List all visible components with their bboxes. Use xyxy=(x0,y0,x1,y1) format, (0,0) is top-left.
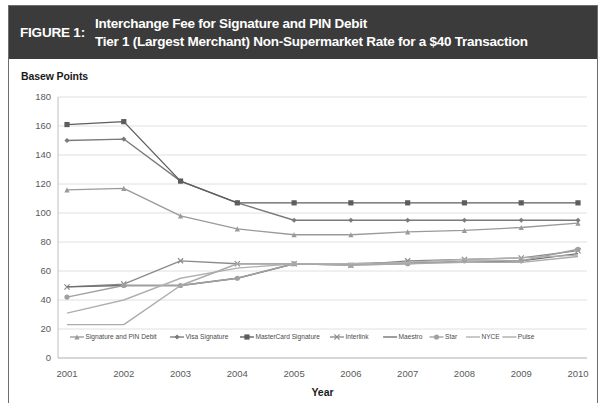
series-marker xyxy=(462,200,467,205)
x-axis-tick-label: 2006 xyxy=(340,368,361,379)
series-marker xyxy=(462,218,467,223)
y-axis-tick-label: 140 xyxy=(35,149,51,160)
series-marker xyxy=(292,218,297,223)
y-axis-tick-label: 180 xyxy=(35,91,51,102)
y-axis-tick-label: 40 xyxy=(40,294,51,305)
x-axis-tick-label: 2003 xyxy=(170,368,191,379)
series-marker xyxy=(235,200,240,205)
legend-item-label: MasterCard Signature xyxy=(255,333,320,341)
series-marker xyxy=(292,200,297,205)
series-marker xyxy=(405,200,410,205)
series-line xyxy=(67,122,578,203)
series-line xyxy=(67,188,578,234)
x-axis-title: Year xyxy=(311,386,333,398)
figure-number-label: FIGURE 1: xyxy=(20,25,95,40)
series-marker xyxy=(348,218,353,223)
series-marker xyxy=(575,247,580,252)
y-axis-tick-label: 160 xyxy=(35,120,51,131)
series-line xyxy=(67,257,578,325)
series-marker xyxy=(178,179,183,184)
series-marker xyxy=(405,218,410,223)
legend-item-label: Signature and PIN Debit xyxy=(86,333,157,341)
series-marker xyxy=(121,283,126,288)
figure-title-lines: Interchange Fee for Signature and PIN De… xyxy=(95,15,528,51)
figure-title-line-2: Tier 1 (Largest Merchant) Non-Supermarke… xyxy=(95,33,528,51)
series-marker xyxy=(64,122,69,127)
figure-title-line-1: Interchange Fee for Signature and PIN De… xyxy=(95,15,528,33)
x-axis-tick-label: 2004 xyxy=(227,368,248,379)
series-marker xyxy=(575,200,580,205)
x-axis-tick-label: 2002 xyxy=(113,368,134,379)
series-marker xyxy=(64,295,69,300)
series-marker xyxy=(235,276,240,281)
x-axis-tick-label: 2010 xyxy=(567,368,588,379)
series-line xyxy=(67,249,578,297)
series-marker xyxy=(575,218,580,223)
series-line xyxy=(67,255,578,313)
y-axis-tick-label: 120 xyxy=(35,178,51,189)
x-axis-tick-label: 2009 xyxy=(511,368,532,379)
legend-item-label: Interlink xyxy=(345,333,369,340)
legend-item-label: Maestro xyxy=(399,333,423,340)
series-marker xyxy=(519,218,524,223)
legend-item-label: Pulse xyxy=(518,333,535,340)
x-axis-tick-label: 2008 xyxy=(454,368,475,379)
figure-frame: FIGURE 1: Interchange Fee for Signature … xyxy=(8,5,598,403)
legend-item-label: Star xyxy=(445,333,458,340)
series-marker xyxy=(64,138,69,143)
y-axis-tick-label: 0 xyxy=(46,352,51,363)
legend-swatch-marker xyxy=(434,334,439,339)
series-line xyxy=(67,139,578,220)
series-marker xyxy=(348,200,353,205)
x-axis-tick-label: 2007 xyxy=(397,368,418,379)
series-line xyxy=(67,251,578,287)
x-axis-tick-label: 2001 xyxy=(56,368,77,379)
legend-swatch-marker xyxy=(174,334,179,339)
figure-title-bar: FIGURE 1: Interchange Fee for Signature … xyxy=(9,6,597,59)
legend-item-label: NYCE xyxy=(481,333,500,340)
x-axis-tick-label: 2005 xyxy=(284,368,305,379)
series-marker xyxy=(519,200,524,205)
y-axis-tick-label: 80 xyxy=(40,236,51,247)
y-axis-tick-label: 60 xyxy=(40,265,51,276)
legend-swatch-marker xyxy=(244,334,249,339)
y-axis-tick-label: 100 xyxy=(35,207,51,218)
line-chart-plot: 0204060801001201401601802001200220032004… xyxy=(9,59,599,404)
chart-body: Basew Points 020406080100120140160180200… xyxy=(9,59,597,404)
y-axis-tick-label: 20 xyxy=(40,323,51,334)
legend-item-label: Visa Signature xyxy=(186,333,229,341)
series-marker xyxy=(121,119,126,124)
